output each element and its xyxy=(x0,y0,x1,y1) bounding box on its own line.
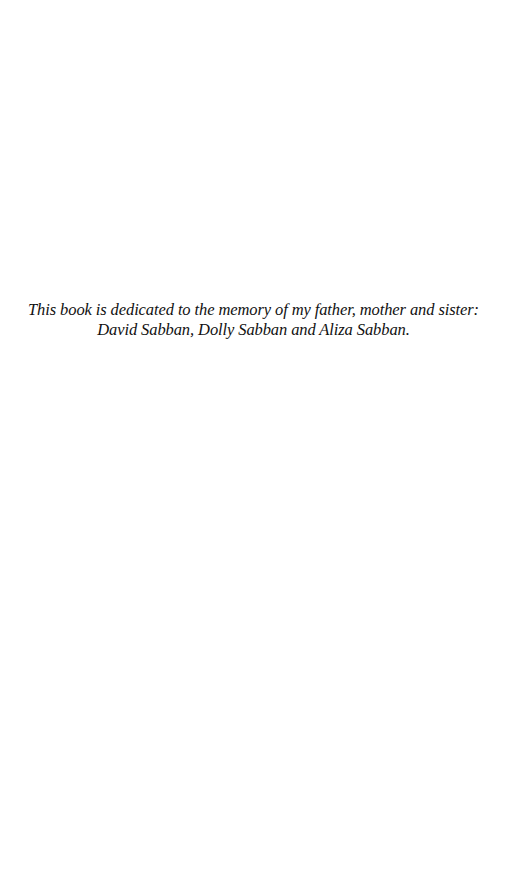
dedication-line-2: David Sabban, Dolly Sabban and Aliza Sab… xyxy=(0,320,507,340)
dedication-line-1: This book is dedicated to the memory of … xyxy=(0,300,507,320)
dedication-block: This book is dedicated to the memory of … xyxy=(0,300,507,340)
